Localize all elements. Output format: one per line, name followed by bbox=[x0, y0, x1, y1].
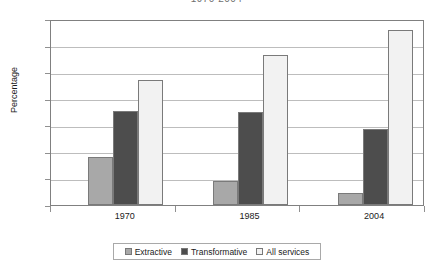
gridline bbox=[51, 100, 423, 101]
y-tick-mark bbox=[45, 47, 50, 48]
y-tick-mark bbox=[45, 20, 50, 21]
bar-transformative-2004 bbox=[363, 129, 388, 205]
legend-swatch-icon bbox=[256, 248, 263, 255]
bar-extractive-2004 bbox=[338, 193, 363, 205]
bar-all-services-1985 bbox=[263, 55, 288, 205]
gridline bbox=[51, 74, 423, 75]
y-tick-mark bbox=[45, 126, 50, 127]
y-tick-mark bbox=[45, 153, 50, 154]
bar-all-services-1970 bbox=[138, 80, 163, 205]
legend-label: Transformative bbox=[191, 247, 247, 257]
plot-area bbox=[50, 20, 424, 206]
x-tick-mark bbox=[424, 206, 425, 212]
legend-label: Extractive bbox=[135, 247, 172, 257]
legend-item-transformative[interactable]: Transformative bbox=[181, 247, 247, 257]
x-tick-mark bbox=[175, 206, 176, 212]
bar-extractive-1985 bbox=[213, 181, 238, 205]
chart-legend: ExtractiveTransformativeAll services bbox=[113, 243, 321, 260]
bar-extractive-1970 bbox=[88, 157, 113, 205]
bar-all-services-2004 bbox=[388, 30, 413, 205]
y-tick-mark bbox=[45, 179, 50, 180]
y-tick-mark bbox=[45, 100, 50, 101]
legend-swatch-icon bbox=[181, 248, 188, 255]
chart-title: 1970-2004 bbox=[0, 0, 433, 4]
bar-chart: 1970-2004 Percentage ExtractiveTransform… bbox=[0, 0, 433, 269]
gridline bbox=[51, 47, 423, 48]
x-tick-mark bbox=[299, 206, 300, 212]
legend-item-extractive[interactable]: Extractive bbox=[125, 247, 172, 257]
y-tick-mark bbox=[45, 73, 50, 74]
legend-item-all-services[interactable]: All services bbox=[256, 247, 309, 257]
legend-swatch-icon bbox=[125, 248, 132, 255]
x-tick-label: 2004 bbox=[344, 211, 404, 221]
legend-label: All services bbox=[266, 247, 309, 257]
x-tick-label: 1985 bbox=[219, 211, 279, 221]
x-tick-mark bbox=[50, 206, 51, 212]
bar-transformative-1985 bbox=[238, 112, 263, 205]
y-axis-title: Percentage bbox=[9, 50, 19, 130]
x-tick-label: 1970 bbox=[95, 211, 155, 221]
bar-transformative-1970 bbox=[113, 111, 138, 205]
